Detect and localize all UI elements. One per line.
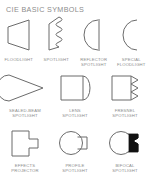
symbol-cell-lens-spotlight[interactable]: LENS SPOTLIGHT [50, 70, 100, 118]
symbol-label: FLOODLIGHT [4, 57, 33, 62]
symbol-label: EFFECTS PROJECTOR [11, 163, 38, 173]
symbol-label: REFLECTOR SPOTLIGHT [80, 57, 107, 67]
cie-basic-symbols-sheet: CIE BASIC SYMBOLS FLOODLIGHT SPOTLIGHT [0, 0, 150, 184]
symbol-cell-spotlight[interactable]: SPOTLIGHT [38, 15, 76, 67]
symbol-cell-sealed-beam-spotlight[interactable]: SEALED-BEAM SPOTLIGHT [0, 70, 50, 118]
reflector-spotlight-arc-bar-icon [81, 15, 107, 55]
bifocal-spotlight-filled-icon [106, 125, 144, 161]
symbol-label: PROFILE SPOTLIGHT [62, 163, 87, 173]
symbol-label: SEALED-BEAM SPOTLIGHT [9, 108, 41, 118]
symbol-label: SPOTLIGHT [44, 57, 69, 62]
symbol-cell-effects-projector[interactable]: EFFECTS PROJECTOR [0, 125, 50, 173]
fresnel-spotlight-zigzag-icon [108, 70, 142, 106]
symbol-label: LENS SPOTLIGHT [62, 108, 87, 118]
symbol-row-2: SEALED-BEAM SPOTLIGHT LENS SPOTLIGHT FRE… [0, 70, 150, 118]
symbol-row-3: EFFECTS PROJECTOR PROFILE SPOTLIGHT BIFO… [0, 125, 150, 173]
symbol-label: FRESNEL SPOTLIGHT [112, 108, 137, 118]
symbol-row-1: FLOODLIGHT SPOTLIGHT REFLECTOR SPOTLIGHT [0, 15, 150, 67]
floodlight-trapezoid-icon [4, 15, 34, 55]
symbol-label: SPECIAL FLOODLIGHT [117, 57, 146, 67]
lens-spotlight-rounded-icon [58, 70, 92, 106]
symbol-cell-bifocal-spotlight[interactable]: BIFOCAL SPOTLIGHT [100, 125, 150, 173]
symbol-cell-floodlight[interactable]: FLOODLIGHT [0, 15, 38, 67]
symbol-cell-fresnel-spotlight[interactable]: FRESNEL SPOTLIGHT [100, 70, 150, 118]
special-floodlight-arc-icon [118, 15, 144, 55]
symbol-label: BIFOCAL SPOTLIGHT [112, 163, 137, 173]
spotlight-wavy-edge-icon [43, 15, 69, 55]
symbol-cell-profile-spotlight[interactable]: PROFILE SPOTLIGHT [50, 125, 100, 173]
sealed-beam-spotlight-cone-icon [4, 70, 46, 106]
symbol-cell-reflector-spotlight[interactable]: REFLECTOR SPOTLIGHT [75, 15, 113, 67]
page-title: CIE BASIC SYMBOLS [6, 5, 84, 14]
effects-projector-tee-icon [8, 125, 42, 161]
profile-spotlight-circle-icon [56, 125, 94, 161]
symbol-cell-special-floodlight[interactable]: SPECIAL FLOODLIGHT [113, 15, 151, 67]
